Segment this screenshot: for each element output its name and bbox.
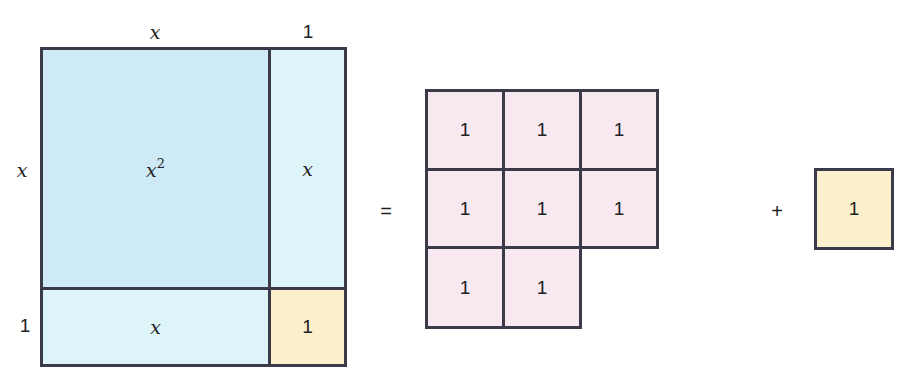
unit-tile: 1 (579, 89, 659, 171)
x-tile-bottom: x (40, 287, 271, 367)
extra-unit-tile: 1 (814, 168, 894, 250)
unit-tile-label: 1 (537, 119, 548, 141)
unit-tile-label: 1 (614, 119, 625, 141)
unit-tile-label: 1 (537, 277, 548, 299)
side-label-x: x (2, 160, 42, 180)
x-tile-label: x (150, 316, 161, 338)
unit-tile: 1 (425, 246, 505, 329)
top-label-1: 1 (288, 22, 328, 42)
x-tile-right: x (268, 47, 347, 290)
unit-tile: 1 (502, 89, 582, 171)
top-label-x: x (135, 22, 175, 42)
unit-tile: 1 (425, 89, 505, 171)
unit-tile: 1 (502, 246, 582, 329)
unit-tile-label: 1 (460, 277, 471, 299)
side-label-1: 1 (5, 316, 45, 336)
unit-tile-label: 1 (460, 119, 471, 141)
unit-tile-label: 1 (302, 316, 313, 338)
unit-tile-label: 1 (614, 198, 625, 220)
unit-tile: 1 (502, 168, 582, 249)
x-squared-label: x2 (146, 156, 165, 181)
x-tile-label: x (302, 158, 313, 180)
unit-tile-corner: 1 (268, 287, 347, 367)
unit-tile: 1 (425, 168, 505, 249)
unit-tile: 1 (579, 168, 659, 249)
unit-tile-label: 1 (537, 198, 548, 220)
equals-sign: = (371, 200, 401, 223)
unit-tile-label: 1 (849, 198, 860, 220)
plus-sign: + (762, 200, 792, 223)
x-squared-tile: x2 (40, 47, 271, 290)
unit-tile-label: 1 (460, 198, 471, 220)
